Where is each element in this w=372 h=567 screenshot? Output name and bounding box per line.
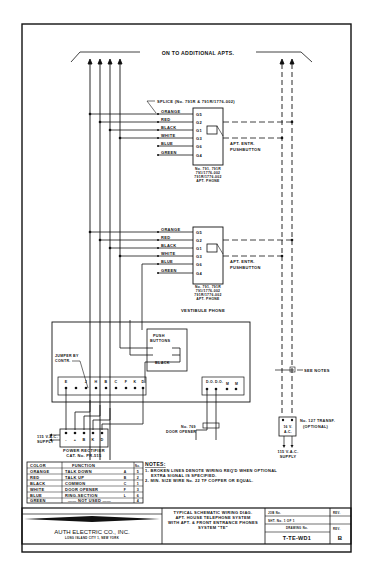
svg-text:TALK DOWN: TALK DOWN xyxy=(65,469,92,474)
rectifier-catalog: CAT. No. PR-515 xyxy=(66,453,102,458)
svg-text:DOOR OPENER: DOOR OPENER xyxy=(65,487,98,492)
apt-phone-1: SPLICE (No. 791R & 791R/1776-002) ORANGE… xyxy=(89,99,294,183)
door-opener-label: DOOR OPENER xyxy=(166,430,196,434)
supply-right-label: 115 V.A.C. xyxy=(277,450,298,454)
color-function-table: COLOR FUNCTION No. ORANGE TALK DOWN A 5 … xyxy=(27,462,143,503)
svg-text:L: L xyxy=(124,494,126,498)
wire-label: BLUE xyxy=(161,141,173,146)
terminal-label: - xyxy=(65,438,67,442)
buttons-label: BUTTONS xyxy=(150,339,171,343)
pushbutton-label: APT. ENTR. xyxy=(230,259,255,264)
terminal-label: G1 xyxy=(196,246,202,251)
model-label: APT. PHONE xyxy=(196,297,220,301)
svg-text:BLACK: BLACK xyxy=(30,481,46,486)
apt-phone-2: ORANGE RED BLACK WHITE BLUE GREEN G5 G2 … xyxy=(89,227,294,330)
wire-label: GREEN xyxy=(161,268,177,273)
table-header: COLOR xyxy=(30,463,46,468)
terminal-label: K xyxy=(134,380,137,384)
wire-label: WHITE xyxy=(161,133,175,138)
svg-text:F: F xyxy=(124,488,126,492)
title-block: AUTH ELECTRIC CO., INC. LONG ISLAND CITY… xyxy=(22,508,351,544)
drawing-no-label: DRAWING No. xyxy=(286,526,308,530)
transformer-optional: (OPTIONAL) xyxy=(303,425,329,429)
terminal-label: D xyxy=(142,380,145,384)
svg-text:COMMON: COMMON xyxy=(65,481,85,486)
svg-text:6: 6 xyxy=(137,494,139,498)
terminal-label: D.O. xyxy=(215,380,223,384)
table-row: ORANGE TALK DOWN A 5 xyxy=(30,469,139,474)
terminal-label: G5 xyxy=(196,230,202,235)
svg-text:—— NOT USED ——: —— NOT USED —— xyxy=(68,498,111,503)
splice-label: SPLICE (No. 791R & 791R/1776-002) xyxy=(157,99,235,104)
terminal-label: C xyxy=(115,380,118,384)
supply-right-label: SUPPLY xyxy=(280,455,297,459)
wire-label: RED xyxy=(161,235,170,240)
terminal-label: G2 xyxy=(196,238,202,243)
top-label-group: ON TO ADDITIONAL APTS. xyxy=(71,50,312,62)
terminal-label: G2 xyxy=(196,120,202,125)
pushbutton-label: PUSHBUTTON xyxy=(230,265,261,270)
terminal-label: G6 xyxy=(196,262,202,267)
terminal-label: B xyxy=(82,438,85,442)
svg-text:5: 5 xyxy=(137,470,139,474)
table-row: BLACK COMMON C 1 xyxy=(30,481,139,486)
push-label: PUSH xyxy=(153,334,165,338)
table-row: RED TALK UP B 2 xyxy=(30,475,139,480)
pushbutton-label: PUSHBUTTON xyxy=(230,147,261,152)
jumper-label: CONTR. xyxy=(55,359,71,363)
wire-label: ORANGE xyxy=(161,109,180,114)
transformer-voltage: A.C. xyxy=(284,430,292,434)
drawing-description: SYSTEM "TE" xyxy=(198,525,228,530)
rev-label: REV. xyxy=(333,511,340,515)
riser-wires xyxy=(88,59,294,460)
pushbutton-label: APT. ENTR. xyxy=(230,141,255,146)
jumper-label: JUMPER BY xyxy=(55,354,79,358)
terminal-label: J xyxy=(85,380,87,384)
note-line: 2- MIN. SIZE WIRE No. 22 TF COPPER OR EQ… xyxy=(145,478,253,483)
supply-left-label: SUPPLY xyxy=(37,440,54,444)
company-name: AUTH ELECTRIC CO., INC. xyxy=(54,529,130,535)
door-opener: No. 769 DOOR OPENER xyxy=(166,423,219,434)
notes: NOTES: 1- BROKEN LINES DENOTE WIRING REQ… xyxy=(145,461,277,483)
table-row: GREEN —— NOT USED —— 4 xyxy=(30,498,139,503)
supply-left-label: 115 V.A.C. xyxy=(37,435,58,439)
transformer-voltage: 16 V. xyxy=(283,425,292,429)
svg-text:ORANGE: ORANGE xyxy=(30,469,49,474)
power-rectifier: - + B K D POWER RECTIFIER CAT. No. PR-51… xyxy=(37,429,108,458)
svg-text:RED: RED xyxy=(30,475,39,480)
svg-text:A: A xyxy=(124,470,127,474)
svg-text:TALK UP: TALK UP xyxy=(65,475,84,480)
vestibule-label: VESTIBULE PHONE xyxy=(181,308,225,313)
terminal-label: + xyxy=(74,438,77,442)
wire-label: BLUE xyxy=(161,259,173,264)
svg-text:3: 3 xyxy=(137,488,139,492)
job-no-label: JOB No. xyxy=(268,511,281,515)
wire-label: RED xyxy=(161,117,170,122)
wire-label: GREEN xyxy=(161,150,177,155)
wire-label: ORANGE xyxy=(161,227,180,232)
notes-title: NOTES: xyxy=(145,461,166,467)
transformer-label: No. 127 TRANSF. xyxy=(300,419,335,423)
terminal-label: D xyxy=(100,438,103,442)
terminal-label: B xyxy=(105,380,108,384)
svg-text:2: 2 xyxy=(137,476,139,480)
revision-value: B xyxy=(338,535,343,541)
table-header: No. xyxy=(135,464,140,468)
wire-label: BLACK xyxy=(161,125,177,130)
svg-text:C: C xyxy=(124,482,127,486)
terminal-label: H xyxy=(95,380,98,384)
svg-text:WHITE: WHITE xyxy=(30,487,44,492)
svg-text:4: 4 xyxy=(137,499,139,503)
table-header: FUNCTION xyxy=(72,463,95,468)
terminal-label: G3 xyxy=(196,136,202,141)
model-label: APT. PHONE xyxy=(196,179,220,183)
wiring-diagram: ON TO ADDITIONAL APTS. SPLICE (No. 791R … xyxy=(0,0,372,567)
sheet-label: SHT. No. 1 OF 1 xyxy=(268,519,295,523)
wire-label: WHITE xyxy=(161,251,175,256)
terminal-label: M xyxy=(235,382,238,386)
terminal-label: G5 xyxy=(196,112,202,117)
rev-label: REV. xyxy=(333,527,340,531)
black-label: BLACK xyxy=(155,361,170,365)
terminal-label: G4 xyxy=(196,153,202,158)
terminal-label: K xyxy=(91,438,94,442)
